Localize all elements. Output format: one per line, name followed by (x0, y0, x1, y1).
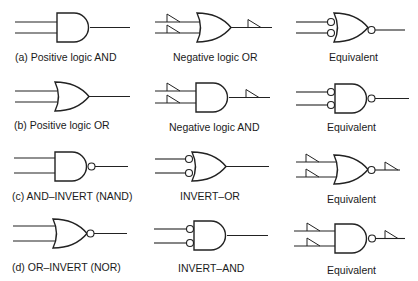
gate-c2-invert-or (155, 152, 269, 181)
gate-d2-invert-and (154, 221, 268, 250)
label-a3: Equivalent (329, 51, 378, 63)
label-c1: (c) AND–INVERT (NAND) (12, 190, 132, 202)
label-b3: Equivalent (327, 121, 376, 133)
gate-b2-negative-and (155, 83, 270, 112)
label-b2: Negative logic AND (169, 121, 259, 133)
label-d2: INVERT–AND (178, 262, 244, 274)
label-b1: (b) Positive logic OR (14, 119, 110, 131)
gate-c3-equivalent (296, 154, 400, 184)
label-c3: Equivalent (327, 193, 376, 205)
gate-b1-positive-or (15, 82, 130, 111)
gate-a1-positive-and (15, 13, 130, 42)
label-d3: Equivalent (327, 264, 376, 276)
label-a2: Negative logic OR (173, 51, 258, 63)
gate-d3-equivalent (294, 223, 405, 253)
gate-b3-equivalent (296, 84, 409, 113)
label-c2: INVERT–OR (180, 190, 240, 202)
gate-d1-nor (13, 219, 127, 248)
gate-a2-negative-or (155, 13, 272, 42)
label-a1: (a) Positive logic AND (15, 51, 117, 63)
logic-gate-diagram (0, 0, 418, 281)
label-d1: (d) OR–INVERT (NOR) (12, 261, 121, 273)
gate-a3-equivalent (296, 13, 405, 42)
gate-c1-nand (14, 152, 128, 181)
